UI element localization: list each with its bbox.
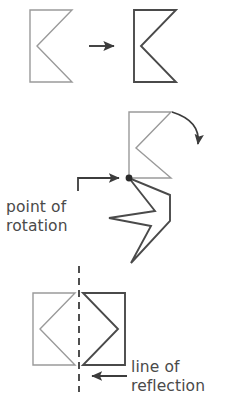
reflection-preimage-shape (33, 293, 75, 365)
diagram-canvas: point of rotation line of reflection (0, 0, 234, 404)
rotation-panel: point of rotation (6, 112, 198, 263)
point-of-rotation-label-line-1: point of (6, 198, 67, 216)
rotation-curved-arrow (172, 112, 198, 144)
translation-preimage-shape (30, 10, 72, 82)
rotation-preimage-shape (129, 112, 171, 178)
rotation-image-shape (109, 178, 170, 263)
line-of-reflection-label: line of reflection (131, 358, 205, 395)
translation-panel (30, 10, 176, 82)
reflection-panel: line of reflection (33, 266, 205, 395)
line-of-reflection-label-line-1: line of (131, 358, 180, 376)
point-of-rotation-dot (126, 175, 133, 182)
point-of-rotation-label: point of rotation (6, 198, 71, 235)
translation-image-shape (134, 10, 176, 82)
point-of-rotation-label-line-2: rotation (6, 217, 68, 235)
point-of-rotation-callout-arrow (78, 178, 119, 191)
reflection-image-shape (83, 293, 125, 365)
transformations-diagram: point of rotation line of reflection (0, 0, 234, 404)
line-of-reflection-label-line-2: reflection (131, 377, 205, 395)
